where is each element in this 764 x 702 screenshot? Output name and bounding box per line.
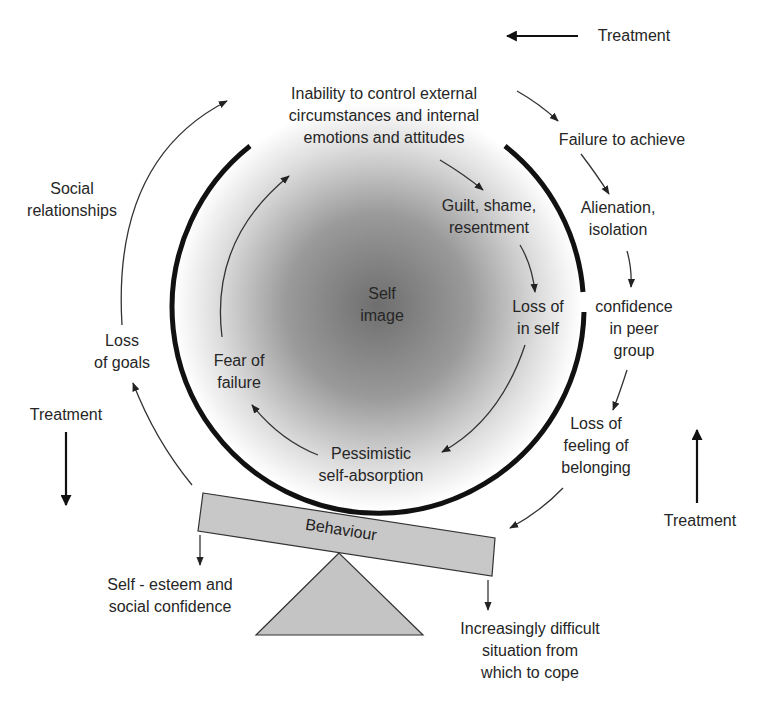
arrow-belonging-to-beam (510, 488, 563, 528)
self-image-cycle-diagram: Self image Inability to control external… (0, 0, 764, 702)
arrow-alienation-to-confidence (627, 251, 631, 287)
node-guilt: Guilt, shame, resentment (442, 195, 536, 239)
node-loss-of-self: Loss of in self (512, 296, 564, 340)
treatment-label-right: Treatment (664, 510, 736, 532)
outcome-difficult-situation: Increasingly difficult situation from wh… (460, 618, 599, 684)
arrow-peer-to-belonging (613, 370, 627, 410)
node-confidence-peer: confidence in peer group (595, 296, 672, 362)
node-alienation: Alienation, isolation (581, 197, 656, 241)
node-loss-belonging: Loss of feeling of belonging (561, 413, 630, 479)
center-label-self-image: Self image (360, 283, 404, 327)
treatment-label-left: Treatment (30, 404, 102, 426)
node-failure-to-achieve: Failure to achieve (559, 129, 685, 151)
treatment-label-top: Treatment (598, 25, 670, 47)
node-fear-of-failure: Fear of failure (214, 350, 265, 394)
arrow-beam-to-loss-goals (133, 383, 192, 485)
node-pessimistic: Pessimistic self-absorption (319, 443, 424, 487)
node-loss-of-goals: Loss of goals (94, 330, 150, 374)
fulcrum-triangle (256, 553, 423, 635)
arrow-to-failure (517, 91, 558, 121)
outcome-self-esteem: Self - esteem and social confidence (107, 574, 232, 618)
node-inability: Inability to control external circumstan… (289, 83, 479, 149)
arrow-failure-to-alienation (581, 154, 609, 194)
node-social-relationships: Social relationships (27, 178, 117, 222)
